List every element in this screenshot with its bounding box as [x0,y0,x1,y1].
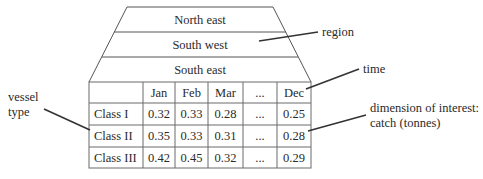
column-header-feb: Feb [182,86,201,100]
cell-value: ... [255,129,264,143]
annotations: region time vessel type dimension of int… [8,25,479,131]
cell-value: 0.32 [215,151,237,165]
column-header-mar: Mar [215,86,237,100]
row-label-class-ii: Class II [94,129,133,143]
annotation-type: type [8,105,30,119]
cell-value: 0.28 [215,107,237,121]
data-cube-diagram: North east South west South east Jan Feb… [0,0,483,179]
cell-value: 0.33 [181,129,203,143]
layer-left-edge [89,7,127,82]
vessel-type-leader-line [44,109,90,130]
annotation-vessel: vessel [8,90,39,104]
time-leader-line [306,69,359,89]
cell-value: 0.45 [181,151,203,165]
layer-right-edge [273,7,311,82]
row-label-class-i: Class I [94,107,128,121]
cell-value: 0.31 [215,129,237,143]
column-header-jan: Jan [151,86,168,100]
column-header-dec: Dec [284,86,305,100]
cell-value: ... [255,151,264,165]
row-label-class-iii: Class III [94,151,137,165]
annotation-catch-tonnes: catch (tonnes) [370,116,440,130]
cell-value: 0.28 [283,129,305,143]
interest-leader-line [308,115,366,131]
layer-stack: North east South west South east [89,7,311,82]
region-leader-line [259,32,318,41]
annotation-region: region [322,25,355,39]
cell-value: 0.35 [148,129,170,143]
cell-value: 0.33 [181,107,203,121]
cell-value: 0.25 [283,107,305,121]
cell-value: 0.29 [283,151,305,165]
layer-label-north-east: North east [174,13,226,27]
annotation-dimension-of-interest: dimension of interest: [370,101,479,115]
cell-value: 0.32 [148,107,170,121]
cell-value: 0.42 [148,151,170,165]
cell-value: ... [255,107,264,121]
data-table: Jan Feb Mar ... Dec Class I 0.32 0.33 0.… [89,82,311,168]
layer-label-south-east: South east [174,63,226,77]
column-header-ellipsis: ... [255,86,264,100]
layer-label-south-west: South west [172,38,228,52]
annotation-time: time [363,62,386,76]
